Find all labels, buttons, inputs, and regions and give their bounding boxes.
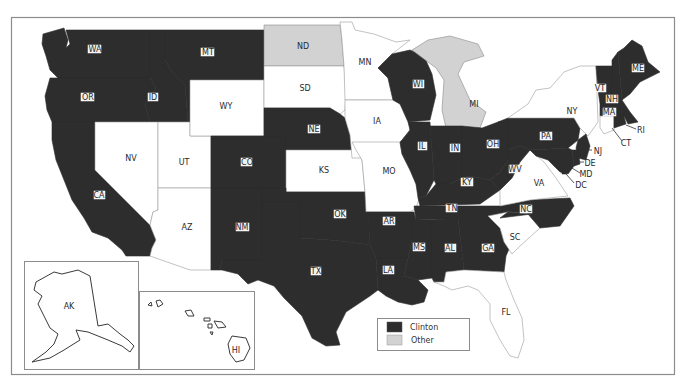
label-nm: NM [236, 223, 249, 232]
svg-text:GA: GA [482, 244, 494, 253]
label-tx: TX [310, 267, 322, 276]
svg-text:TN: TN [446, 204, 458, 213]
svg-text:KY: KY [462, 178, 472, 187]
label-co: CO [241, 158, 253, 167]
state-ct[interactable] [600, 116, 614, 134]
label-oh: OH [487, 140, 499, 149]
svg-text:OK: OK [334, 210, 346, 219]
legend: Clinton Other [378, 319, 470, 351]
label-ut: UT [179, 158, 190, 167]
label-wa: WA [88, 45, 102, 54]
svg-text:PA: PA [541, 132, 551, 141]
svg-text:OR: OR [82, 93, 94, 102]
label-mi: MI [469, 100, 478, 109]
state-or[interactable] [45, 78, 156, 122]
state-pa[interactable] [498, 118, 580, 150]
svg-text:MS: MS [413, 243, 425, 252]
svg-text:NE: NE [308, 125, 319, 134]
svg-text:TX: TX [310, 267, 322, 276]
state-dc[interactable] [562, 170, 566, 174]
svg-text:LA: LA [383, 266, 394, 275]
label-ms: MS [413, 243, 425, 252]
svg-text:MA: MA [603, 108, 616, 117]
state-ri[interactable] [614, 116, 626, 128]
state-in[interactable] [430, 126, 462, 184]
svg-text:IL: IL [419, 142, 426, 151]
label-pa: PA [540, 132, 552, 141]
label-in: IN [450, 144, 460, 153]
label-me: ME [632, 64, 644, 73]
label-vt: VT [595, 84, 606, 93]
label-id: ID [148, 93, 158, 102]
label-ok: OK [334, 210, 347, 219]
label-nh: NH [606, 95, 618, 104]
svg-text:NH: NH [606, 95, 618, 104]
label-la: LA [383, 266, 394, 275]
label-nc: NC [520, 205, 532, 214]
svg-text:CO: CO [241, 158, 253, 167]
legend-label-other: Other [411, 336, 434, 345]
label-fl: FL [501, 308, 511, 317]
state-az[interactable] [150, 188, 211, 270]
svg-text:VT: VT [595, 84, 605, 93]
label-tn: TN [446, 204, 458, 213]
label-nv: NV [125, 154, 137, 163]
label-ne: NE [308, 125, 320, 134]
label-al: AL [445, 244, 456, 253]
svg-text:WV: WV [508, 165, 522, 174]
callout-dc [566, 174, 574, 183]
label-il: IL [418, 142, 427, 151]
label-wi: WI [413, 80, 424, 89]
label-ca: CA [93, 191, 105, 200]
label-nj: NJ [594, 147, 602, 156]
svg-text:NC: NC [520, 205, 532, 214]
label-de: DE [584, 159, 595, 168]
us-map: WA MT OR ID CO NM NE OK TX AR LA MS AL G… [0, 0, 688, 389]
label-ia: IA [373, 117, 381, 126]
label-az: AZ [182, 223, 193, 232]
label-ky: KY [461, 178, 473, 187]
svg-text:OH: OH [487, 140, 499, 149]
label-sd: SD [299, 84, 310, 93]
label-va: VA [534, 179, 545, 188]
label-wy: WY [220, 102, 233, 111]
svg-text:AR: AR [383, 217, 394, 226]
svg-text:AL: AL [445, 244, 455, 253]
label-ar: AR [383, 217, 395, 226]
label-mn: MN [359, 58, 372, 67]
callout-ri [626, 125, 636, 129]
label-ri: RI [637, 126, 645, 135]
svg-text:ME: ME [632, 64, 644, 73]
label-dc: DC [575, 181, 587, 190]
label-ma: MA [603, 108, 616, 117]
label-ny: NY [567, 107, 578, 116]
label-nd: ND [297, 42, 309, 51]
svg-text:ID: ID [149, 93, 158, 102]
label-ga: GA [482, 244, 494, 253]
label-ct: CT [621, 139, 632, 148]
label-hi: HI [232, 346, 240, 355]
label-mt: MT [201, 48, 214, 57]
label-or: OR [81, 93, 94, 102]
label-mo: MO [382, 167, 395, 176]
svg-text:CA: CA [93, 191, 105, 200]
svg-text:MT: MT [202, 48, 214, 57]
label-wv: WV [508, 165, 522, 174]
legend-swatch-other [387, 335, 402, 345]
label-ks: KS [319, 166, 329, 175]
svg-text:WI: WI [413, 80, 423, 89]
label-md: MD [579, 170, 592, 179]
legend-label-clinton: Clinton [410, 323, 438, 332]
svg-text:NM: NM [236, 223, 249, 232]
legend-swatch-clinton [387, 322, 402, 332]
svg-text:IN: IN [451, 144, 459, 153]
label-sc: SC [510, 233, 521, 242]
svg-text:WA: WA [89, 45, 102, 54]
label-ak: AK [64, 302, 75, 311]
